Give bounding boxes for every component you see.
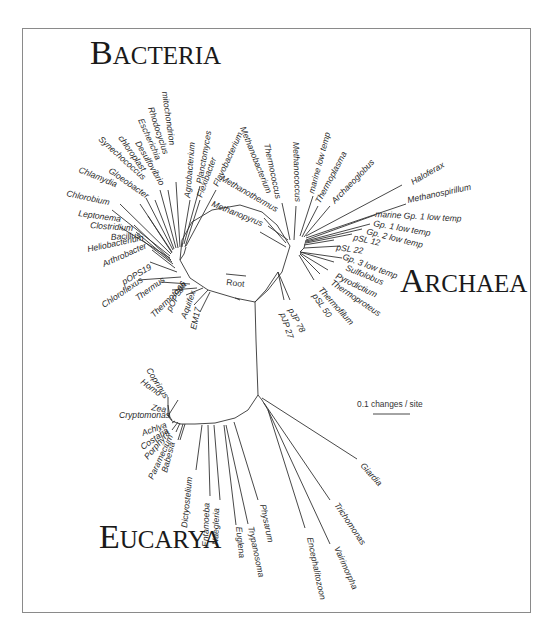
branch xyxy=(168,395,258,424)
taxon-branch xyxy=(278,272,290,300)
taxon-label-eucarya: Trichomonas xyxy=(332,501,368,548)
branch xyxy=(258,395,268,410)
taxon-branch xyxy=(268,410,305,528)
taxon-branch xyxy=(278,272,284,300)
taxon-label-archaea: Methanococcus xyxy=(291,142,303,203)
domain-label-bacteria: BACTERIA xyxy=(90,34,221,71)
taxon-label-eucarya: Physarum xyxy=(258,503,276,543)
taxon-label-eucarya: Euglena xyxy=(234,526,247,559)
taxon-label-eucarya: Vairimorpha xyxy=(332,545,360,591)
taxon-label-eucarya: Encephalitozoon xyxy=(305,536,328,600)
taxon-branch xyxy=(196,425,202,470)
branch xyxy=(300,240,306,252)
scale-bar: 0.1 changes / site xyxy=(357,399,423,414)
root-label: Root xyxy=(226,277,246,289)
taxon-label-bacteria: Chlorobium xyxy=(66,188,111,207)
branch xyxy=(255,272,278,302)
taxon-branch xyxy=(300,196,313,236)
taxon-branch xyxy=(304,246,340,248)
root-marker: Root xyxy=(226,274,246,289)
taxon-branch xyxy=(168,190,178,248)
taxon-branch xyxy=(299,255,314,280)
branch xyxy=(255,302,258,395)
taxon-branch xyxy=(300,252,334,262)
branch xyxy=(255,246,290,302)
taxon-label-bacteria: Agrobacterium xyxy=(182,142,197,200)
taxon-branch xyxy=(226,425,248,524)
taxon-label-eucarya: Giardia xyxy=(359,461,385,488)
taxon-branch xyxy=(208,425,210,496)
taxon-label-archaea: Haloferax xyxy=(409,159,446,186)
root-overline xyxy=(226,274,246,276)
taxon-branch xyxy=(268,410,330,544)
taxon-label-eucarya: Trypanosoma xyxy=(246,525,267,578)
taxon-branch xyxy=(294,206,296,240)
phylogenetic-tree: PlanctomycesFlavobacteriumFlexibacterAgr… xyxy=(0,0,553,637)
taxon-branch xyxy=(224,425,236,525)
domain-label-archaea: ARCHAEA xyxy=(400,262,527,299)
scale-bar-label: 0.1 changes / site xyxy=(357,399,423,409)
taxon-label-eucarya: Cryptomonas xyxy=(119,410,171,420)
taxon-labels: PlanctomycesFlavobacteriumFlexibacterAgr… xyxy=(66,91,472,601)
taxon-label-eucarya: Dictyostelium xyxy=(179,476,194,528)
taxon-branch xyxy=(214,425,220,500)
taxon-branch xyxy=(234,422,258,500)
taxon-branch xyxy=(264,218,286,243)
taxon-branch xyxy=(260,232,286,247)
taxon-branch xyxy=(264,403,330,500)
